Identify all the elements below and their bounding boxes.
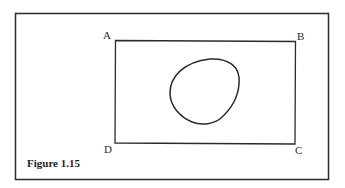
vertex-label-c: C xyxy=(295,144,302,156)
vertex-label-d: D xyxy=(104,143,112,155)
figure-canvas: A B C D Figure 1.15 xyxy=(0,0,345,188)
rectangle-abcd xyxy=(115,41,296,145)
outer-frame xyxy=(16,14,329,180)
vertex-label-a: A xyxy=(103,29,111,41)
figure-caption: Figure 1.15 xyxy=(27,157,80,169)
vertex-label-b: B xyxy=(297,30,304,42)
closed-curve-region xyxy=(170,59,239,124)
